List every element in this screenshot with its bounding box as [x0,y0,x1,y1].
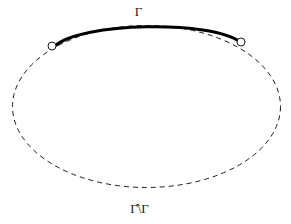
arc-label-gamma: Γ [0,5,284,18]
complement-label-gamma-hat-minus-gamma: Γ̂\Γ [0,202,285,215]
figure-canvas: Γ Γ̂\Γ [0,0,291,224]
left-endpoint-marker [48,42,56,50]
right-endpoint-marker [237,38,245,46]
curve-diagram-svg [0,0,291,224]
